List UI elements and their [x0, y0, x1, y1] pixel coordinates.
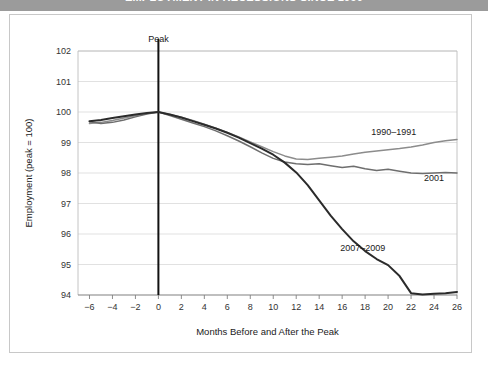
x-axis-tick-label: 4	[202, 302, 207, 312]
x-axis-tick-label: 10	[268, 302, 278, 312]
y-axis-tick-label: 97	[61, 199, 71, 209]
y-axis-title: Employment (peak = 100)	[23, 118, 34, 227]
x-axis-tick-label: 18	[360, 302, 370, 312]
series-annotation-label: 2001	[424, 173, 444, 183]
y-axis-tick-label: 95	[61, 260, 71, 270]
x-axis-tick-label: 12	[291, 302, 301, 312]
chart-frame: 949596979899100101102−6−4−20246810121416…	[9, 14, 472, 353]
x-axis-tick-label: 26	[452, 302, 462, 312]
y-axis-tick-label: 102	[56, 46, 71, 56]
x-axis-tick-label: 20	[383, 302, 393, 312]
x-axis-tick-label: 8	[248, 302, 253, 312]
y-axis-tick-label: 94	[61, 290, 71, 300]
y-axis-tick-label: 96	[61, 229, 71, 239]
x-axis-tick-label: 0	[156, 302, 161, 312]
figure-container: EMPLOYMENT IN RECESSIONS SINCE 1990 9495…	[0, 0, 488, 369]
peak-annotation-label: Peak	[148, 34, 169, 44]
x-axis-title: Months Before and After the Peak	[196, 326, 339, 337]
x-axis-tick-label: 24	[429, 302, 439, 312]
x-axis-tick-label: −6	[84, 302, 94, 312]
x-axis-tick-label: 22	[406, 302, 416, 312]
chart-title-bar: EMPLOYMENT IN RECESSIONS SINCE 1990	[0, 0, 488, 11]
series-annotation-label: 1990–1991	[371, 127, 416, 137]
employment-recessions-line-chart: 949596979899100101102−6−4−20246810121416…	[10, 15, 471, 352]
x-axis-tick-label: 16	[337, 302, 347, 312]
x-axis-tick-label: 2	[179, 302, 184, 312]
x-axis-tick-label: 14	[314, 302, 324, 312]
x-axis-tick-label: −4	[107, 302, 117, 312]
y-axis-tick-label: 100	[56, 107, 71, 117]
y-axis-tick-label: 99	[61, 138, 71, 148]
chart-title: EMPLOYMENT IN RECESSIONS SINCE 1990	[0, 0, 488, 3]
series-annotation-label: 2007–2009	[340, 243, 385, 253]
y-axis-tick-label: 98	[61, 168, 71, 178]
x-axis-tick-label: −2	[130, 302, 140, 312]
y-axis-tick-label: 101	[56, 77, 71, 87]
x-axis-tick-label: 6	[225, 302, 230, 312]
